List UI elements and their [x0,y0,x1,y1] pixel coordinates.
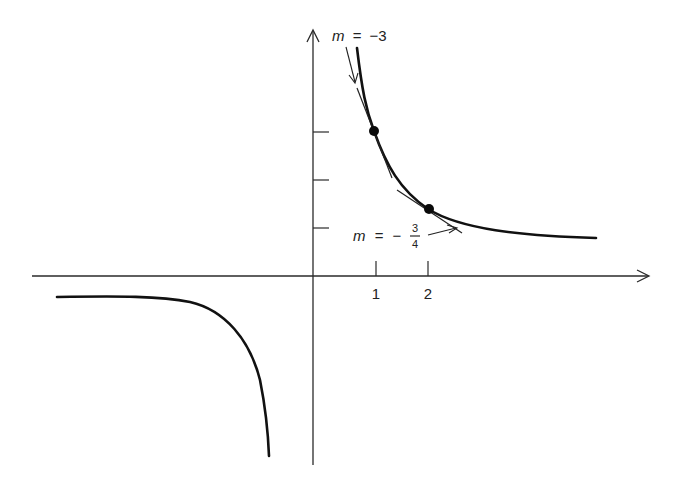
slope-var: m [332,27,345,44]
slope-eq: = [353,27,362,44]
hyperbola-diagram: 1 2 m = −3 m = [0,0,680,490]
slope-denominator: 4 [412,238,418,250]
slope-value: −3 [370,27,387,44]
svg-text:m = −3: m = −3 [332,27,387,44]
hyperbola-right-branch [357,48,596,238]
point-2-1-5 [424,204,434,214]
pointer-arrow-m-3-4 [428,225,457,235]
slope-sign: − [393,227,402,244]
slope-numerator: 3 [412,222,418,234]
y-axis [307,30,319,465]
slope-label-m-3: m = −3 [332,27,387,44]
hyperbola-left-branch [57,297,269,456]
x-ticks [376,261,428,276]
x-axis [32,270,649,282]
y-ticks [313,132,329,228]
slope-var: m [353,227,366,244]
slope-label-m-3-4: m = − 3 4 [353,222,420,250]
x-tick-label-1: 1 [372,285,380,302]
pointer-arrow-m-3 [346,47,358,83]
svg-text:m = −: m = − [353,227,402,244]
point-1-3 [369,126,379,136]
slope-eq: = [375,227,384,244]
x-tick-label-2: 2 [424,285,432,302]
